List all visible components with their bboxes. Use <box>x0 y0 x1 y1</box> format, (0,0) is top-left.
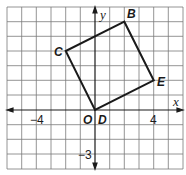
vertex-label-B: B <box>127 7 136 21</box>
origin-label: O <box>83 113 93 127</box>
y-axis-label: y <box>98 7 106 22</box>
tick-label-x-4: 4 <box>150 113 157 127</box>
vertex-label-D: D <box>98 113 107 127</box>
tick-label-x-neg4: −4 <box>30 113 44 127</box>
vertex-label-C: C <box>54 45 63 59</box>
tick-label-y-neg3: −3 <box>78 148 92 162</box>
x-axis-label: x <box>172 94 179 109</box>
coordinate-plane: y x B C D E O −4 4 −3 <box>0 0 186 175</box>
vertex-label-E: E <box>157 75 166 89</box>
